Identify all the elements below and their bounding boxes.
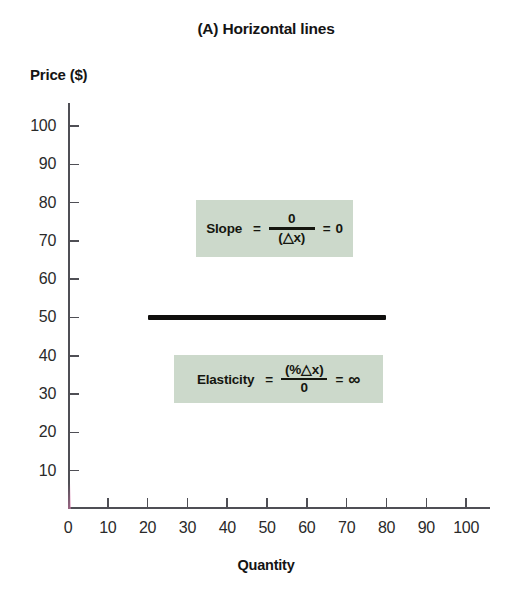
y-tick-label: 30 <box>39 385 56 403</box>
x-tick-label: 50 <box>258 519 275 537</box>
y-tick-mark <box>70 355 79 357</box>
x-tick-label: 20 <box>139 519 156 537</box>
x-tick-label: 90 <box>418 519 435 537</box>
y-tick-mark <box>70 164 79 166</box>
x-tick-mark <box>187 498 189 507</box>
elasticity-fraction: (%△x) 0 <box>281 363 328 396</box>
y-tick-label: 20 <box>39 423 56 441</box>
y-tick-label: 70 <box>39 232 56 250</box>
elasticity-equals-sign: = <box>265 372 273 387</box>
x-axis-line <box>68 507 490 509</box>
y-tick-mark <box>70 240 79 242</box>
elasticity-formula: Elasticity = (%△x) 0 = ∞ <box>197 363 360 396</box>
horizontal-demand-line <box>148 315 387 321</box>
x-axis-label: Quantity <box>0 557 532 573</box>
y-tick-mark <box>70 202 79 204</box>
x-tick-label: 10 <box>99 519 116 537</box>
x-tick-mark <box>147 498 149 507</box>
y-tick-label: 100 <box>30 117 56 135</box>
y-tick-mark <box>70 393 79 395</box>
x-tick-mark <box>107 498 109 507</box>
x-tick-mark <box>426 498 428 507</box>
x-tick-mark <box>386 498 388 507</box>
y-tick-label: 10 <box>39 462 56 480</box>
y-tick-mark <box>70 278 79 280</box>
y-tick-label: 90 <box>39 155 56 173</box>
slope-result: 0 <box>335 221 342 236</box>
y-tick-label: 40 <box>39 347 56 365</box>
x-tick-label: 80 <box>378 519 395 537</box>
y-tick-mark <box>70 317 79 319</box>
x-tick-mark <box>306 498 308 507</box>
x-tick-mark <box>266 498 268 507</box>
x-tick-mark <box>226 498 228 507</box>
y-tick-mark <box>70 470 79 472</box>
slope-denominator: (△x) <box>274 230 309 245</box>
x-tick-label: 40 <box>219 519 236 537</box>
slope-annotation-box: Slope = 0 (△x) = 0 <box>196 200 353 257</box>
y-tick-mark <box>70 125 79 127</box>
y-tick-label: 60 <box>39 270 56 288</box>
elasticity-annotation-box: Elasticity = (%△x) 0 = ∞ <box>174 355 383 403</box>
x-tick-mark <box>346 498 348 507</box>
x-tick-label: 30 <box>179 519 196 537</box>
elasticity-result: ∞ <box>348 371 360 388</box>
y-axis-label: Price ($) <box>30 66 87 83</box>
y-tick-mark <box>70 432 79 434</box>
slope-numerator: 0 <box>284 212 299 227</box>
x-tick-label: 60 <box>298 519 315 537</box>
elasticity-label: Elasticity <box>197 372 254 387</box>
x-tick-mark <box>465 498 467 507</box>
x-tick-label: 0 <box>64 519 73 537</box>
slope-equals-sign: = <box>253 221 261 236</box>
chart-title: (A) Horizontal lines <box>0 20 532 38</box>
slope-fraction: 0 (△x) <box>269 212 315 245</box>
x-tick-label: 70 <box>338 519 355 537</box>
elasticity-equals-sign-2: = <box>335 372 343 387</box>
y-tick-label: 80 <box>39 194 56 212</box>
x-tick-label: 100 <box>453 519 479 537</box>
chart-figure: (A) Horizontal lines Price ($) 102030405… <box>0 0 532 601</box>
slope-formula: Slope = 0 (△x) = 0 <box>206 212 342 245</box>
plot-area: 102030405060708090100 010203040506070809… <box>68 103 490 509</box>
elasticity-denominator: 0 <box>297 380 312 395</box>
slope-equals-sign-2: = <box>323 221 331 236</box>
y-tick-label: 50 <box>39 308 56 326</box>
slope-label: Slope <box>206 221 242 236</box>
elasticity-numerator: (%△x) <box>281 363 328 378</box>
